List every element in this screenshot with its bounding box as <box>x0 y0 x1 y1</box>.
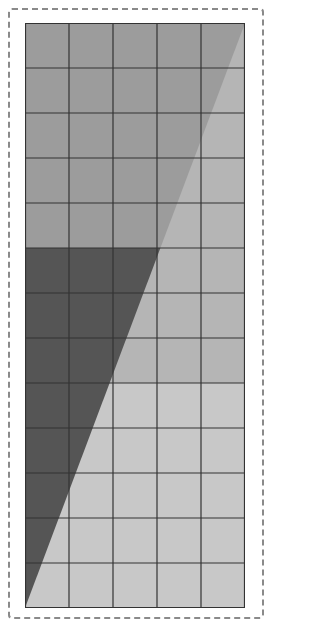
area-model-figure <box>25 23 245 608</box>
watermark-text <box>268 400 276 610</box>
area-model-svg <box>25 23 245 608</box>
